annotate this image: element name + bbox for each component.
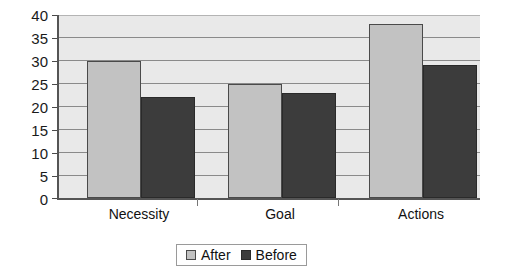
legend: After Before — [176, 244, 307, 266]
bar-goal-before — [282, 93, 336, 198]
y-tick-label: 35 — [2, 31, 48, 46]
bar-chart: 40 35 30 25 20 15 10 5 0 — [0, 0, 505, 275]
bar-actions-after — [369, 24, 423, 198]
y-tick-label: 40 — [2, 8, 48, 23]
y-tick-label: 15 — [2, 123, 48, 138]
y-axis: 40 35 30 25 20 15 10 5 0 — [0, 8, 48, 200]
y-tick-label: 5 — [2, 169, 48, 184]
legend-label: After — [201, 247, 231, 263]
legend-entry-after: After — [186, 247, 231, 263]
bar-necessity-after — [87, 61, 141, 198]
category-label-necessity: Necessity — [109, 206, 170, 222]
y-tick-label: 25 — [2, 77, 48, 92]
y-tick-label: 10 — [2, 146, 48, 161]
y-tick-label: 0 — [2, 192, 48, 207]
y-tick-label: 30 — [2, 54, 48, 69]
legend-entry-before: Before — [241, 247, 297, 263]
category-separator — [197, 199, 198, 206]
legend-swatch-icon — [186, 250, 196, 260]
bar-goal-after — [228, 84, 282, 198]
bar-actions-before — [423, 65, 477, 198]
category-label-actions: Actions — [398, 206, 444, 222]
category-label-goal: Goal — [265, 206, 295, 222]
bars-layer — [59, 15, 480, 198]
legend-label: Before — [256, 247, 297, 263]
legend-swatch-icon — [241, 250, 251, 260]
y-tick-label: 20 — [2, 100, 48, 115]
bar-necessity-before — [141, 97, 195, 198]
category-separator — [338, 199, 339, 206]
plot-area — [57, 15, 480, 200]
